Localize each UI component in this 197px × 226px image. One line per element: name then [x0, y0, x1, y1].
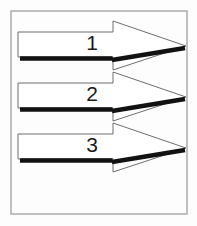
- arrow-3-label: 3: [86, 133, 98, 156]
- process-arrows-figure: 123: [0, 0, 197, 226]
- arrow-2-label: 2: [86, 82, 98, 105]
- diagram-canvas: 123: [0, 0, 197, 226]
- arrow-labels-group: 123: [86, 31, 98, 156]
- arrow-1-label: 1: [86, 31, 98, 54]
- arrows-group: [18, 21, 186, 172]
